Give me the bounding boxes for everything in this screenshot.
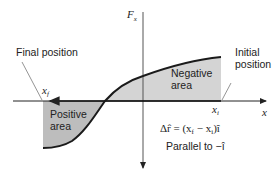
x-initial-label: xi [211,103,219,117]
x-axis-label: x [261,106,267,118]
initial-position-leader [222,83,231,100]
negative-area-region [105,57,221,101]
final-position-label: Final position [16,46,78,58]
x-final-label: xf [41,84,50,98]
y-axis-label: Fx [126,8,138,23]
final-position-leader [22,62,42,100]
displacement-equation: Δr̂ = (xf − xi)î [160,122,221,136]
initial-position-label: Initialposition [235,46,271,70]
parallel-note: Parallel to −î [166,140,226,152]
work-diagram: Fx x Final position xf Initialposition x… [0,0,280,180]
